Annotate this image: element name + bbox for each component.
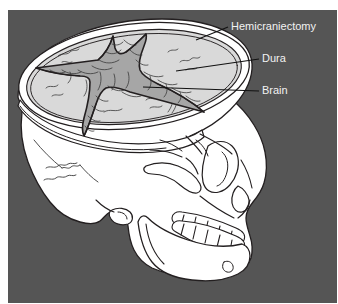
label-dura: Dura xyxy=(262,52,287,64)
illustration-canvas: Hemicraniectomy Dura Brain xyxy=(0,0,338,304)
label-hemicraniectomy: Hemicraniectomy xyxy=(231,20,316,32)
label-brain: Brain xyxy=(262,84,288,96)
hemicraniectomy-figure: Hemicraniectomy Dura Brain xyxy=(0,0,338,304)
